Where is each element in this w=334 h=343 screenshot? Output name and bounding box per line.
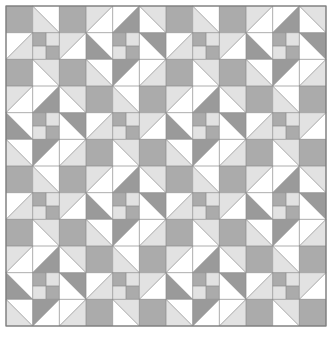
quilt-block-b [6,246,86,326]
quilt-cell [33,33,60,60]
quilt-cell [59,33,86,60]
quilt-block-a [86,246,166,326]
quilt-cell [33,166,60,193]
quilt-cell [246,219,273,246]
quilt-cell [273,113,300,140]
quilt-cell [86,113,113,140]
quilt-cell [33,246,60,273]
quilt-cell [33,86,60,113]
quilt-cell [273,246,300,273]
quilt-cell [139,6,166,33]
quilt-cell [113,86,140,113]
quilt-cell [33,273,60,300]
quilt-cell [166,246,193,273]
quilt-cell [246,166,273,193]
quilt-cell [139,273,166,300]
quilt-block-a [246,86,326,166]
quilt-cell [6,246,33,273]
quilt-cell [6,113,33,140]
quilt-cell [166,219,193,246]
quilt-cell [166,193,193,220]
quilt-cell [59,139,86,166]
quilt-cell [299,113,326,140]
quilt-cell [246,33,273,60]
quilt-cell [299,219,326,246]
quilt-cell [113,113,140,140]
quilt-cell [113,59,140,86]
quilt-cell [86,6,113,33]
quilt-block-a [166,6,246,86]
quilt-cell [193,219,220,246]
quilt-cell [86,193,113,220]
quilt-cell [299,33,326,60]
quilt-cell [193,193,220,220]
quilt-cell [273,59,300,86]
quilt-cell [113,299,140,326]
quilt-cell [6,273,33,300]
quilt-cell [139,33,166,60]
quilt-cell [6,219,33,246]
quilt-cell [139,139,166,166]
quilt-block-b [6,86,86,166]
quilt-cell [299,6,326,33]
quilt-cell [219,6,246,33]
quilt-cell [6,193,33,220]
quilt-cell [299,86,326,113]
quilt-cell [219,246,246,273]
quilt-cell [273,273,300,300]
quilt-cell [59,299,86,326]
quilt-block-b [86,6,166,86]
quilt-cell [139,113,166,140]
quilt-cell [246,59,273,86]
quilt-cell [166,6,193,33]
quilt-cell [59,59,86,86]
quilt-cell [299,273,326,300]
quilt-cell [166,166,193,193]
quilt-cell [6,139,33,166]
quilt-cell [59,113,86,140]
quilt-cell [6,33,33,60]
quilt-cell [219,273,246,300]
quilt-cell [113,139,140,166]
quilt-cell [86,273,113,300]
quilt-cell [59,193,86,220]
quilt-cell [166,113,193,140]
quilt-cell [166,86,193,113]
quilt-block-a [246,246,326,326]
quilt-cell [166,139,193,166]
quilt-block-a [6,166,86,246]
quilt-cell [139,193,166,220]
quilt-block-a [6,6,86,86]
quilt-cell [59,6,86,33]
quilt-cell [219,33,246,60]
quilt-cell [193,139,220,166]
quilt-cell [166,273,193,300]
quilt-cell [193,299,220,326]
quilt-cell [113,219,140,246]
quilt-cell [113,273,140,300]
quilt-cell [273,166,300,193]
quilt-cell [193,166,220,193]
quilt-cell [166,299,193,326]
quilt-block-b [166,246,246,326]
quilt-cell [219,219,246,246]
quilt-cell [246,193,273,220]
quilt-cell [246,6,273,33]
quilt-cell [299,59,326,86]
quilt-cell [273,6,300,33]
quilt-cell [299,139,326,166]
quilt-cell [113,246,140,273]
quilt-cell [59,246,86,273]
quilt-cell [219,193,246,220]
quilt-cell [299,166,326,193]
quilt-cell [246,139,273,166]
quilt-cell [113,166,140,193]
quilt-cell [86,299,113,326]
quilt-cell [139,246,166,273]
quilt-cell [273,139,300,166]
quilt-block-b [166,86,246,166]
quilt-cell [113,193,140,220]
quilt-cell [86,246,113,273]
quilt-cell [273,299,300,326]
quilt-cell [299,299,326,326]
